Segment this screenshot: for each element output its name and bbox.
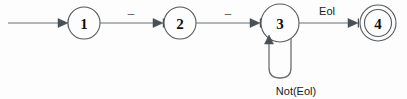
state-node-3[interactable]: 3: [261, 4, 299, 42]
transition-2-to-3: –: [196, 5, 260, 28]
state-diagram-svg: 1 – 2 – 3 Not(Eol): [0, 0, 407, 99]
edge-2-3-arrow-head-icon: [250, 19, 260, 28]
transition-3-to-4: Eol: [299, 5, 358, 28]
edge-1-2-label: –: [127, 5, 135, 20]
state-1-label: 1: [80, 16, 88, 32]
edge-3-4-label: Eol: [319, 5, 335, 17]
state-diagram-canvas: 1 – 2 – 3 Not(Eol): [0, 0, 407, 99]
state-node-1[interactable]: 1: [68, 7, 100, 39]
state-4-label: 4: [374, 16, 382, 32]
state-2-label: 2: [176, 16, 184, 32]
edge-3-4-arrow-head-icon: [348, 19, 358, 28]
transition-3-self-loop: Not(Eol): [265, 35, 317, 97]
self-loop-3-path: [269, 39, 291, 78]
transition-start-to-1: [8, 19, 68, 28]
transition-1-to-2: –: [100, 5, 163, 28]
edge-1-2-arrow-head-icon: [153, 19, 163, 28]
state-node-4[interactable]: 4: [360, 5, 396, 41]
start-arrow-head-icon: [58, 19, 68, 28]
state-node-2[interactable]: 2: [164, 7, 196, 39]
state-3-label: 3: [276, 16, 284, 32]
self-loop-3-label: Not(Eol): [276, 85, 316, 97]
edge-2-3-label: –: [224, 5, 232, 20]
